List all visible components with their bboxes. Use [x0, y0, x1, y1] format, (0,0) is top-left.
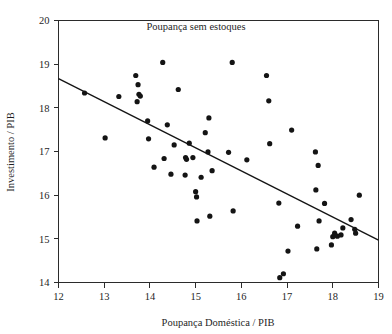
- data-point: [340, 225, 345, 230]
- data-point: [266, 98, 271, 103]
- data-point: [176, 87, 181, 92]
- data-point: [190, 155, 195, 160]
- data-point: [207, 214, 212, 219]
- data-point: [135, 99, 140, 104]
- data-point: [172, 142, 177, 147]
- data-point: [264, 73, 269, 78]
- data-point: [357, 193, 362, 198]
- data-point: [146, 136, 151, 141]
- y-tick-label: 17: [39, 146, 50, 157]
- x-tick-label: 19: [373, 291, 384, 302]
- x-tick-label: 17: [282, 291, 293, 302]
- x-axis-label: Poupança Doméstica / PIB: [162, 317, 275, 328]
- data-point: [289, 128, 294, 133]
- data-point: [313, 187, 318, 192]
- data-point: [193, 189, 198, 194]
- y-tick-label: 15: [39, 234, 50, 245]
- tick-marks: [54, 21, 379, 288]
- data-point: [116, 94, 121, 99]
- data-point: [314, 246, 319, 251]
- data-point: [135, 82, 140, 87]
- data-points: [82, 60, 362, 280]
- trend-line: [59, 79, 379, 241]
- data-point: [244, 157, 249, 162]
- data-point: [184, 157, 189, 162]
- data-point: [133, 73, 138, 78]
- data-point: [194, 218, 199, 223]
- data-point: [203, 130, 208, 135]
- data-point: [348, 217, 353, 222]
- y-tick-labels: 14151617181920: [39, 15, 50, 288]
- data-point: [183, 172, 188, 177]
- data-point: [281, 271, 286, 276]
- y-tick-label: 20: [39, 15, 50, 26]
- data-point: [353, 231, 358, 236]
- data-point: [160, 60, 165, 65]
- y-tick-label: 14: [39, 277, 50, 288]
- data-point: [322, 201, 327, 206]
- data-point: [285, 248, 290, 253]
- x-tick-label: 16: [236, 291, 247, 302]
- regression-line: [59, 79, 379, 241]
- x-tick-label: 12: [53, 291, 64, 302]
- data-point: [277, 275, 282, 280]
- y-tick-label: 16: [39, 190, 50, 201]
- data-point: [151, 165, 156, 170]
- chart-title: Poupança sem estoques: [146, 21, 245, 32]
- data-point: [194, 194, 199, 199]
- data-point: [316, 218, 321, 223]
- data-point: [276, 200, 281, 205]
- y-axis-label: Investimento / PIB: [5, 112, 16, 191]
- data-point: [338, 232, 343, 237]
- data-point: [206, 115, 211, 120]
- data-point: [231, 208, 236, 213]
- x-tick-label: 15: [190, 291, 201, 302]
- data-point: [316, 163, 321, 168]
- data-point: [230, 60, 235, 65]
- data-point: [313, 149, 318, 154]
- data-point: [295, 224, 300, 229]
- data-point: [138, 93, 143, 98]
- x-tick-label: 18: [328, 291, 339, 302]
- plot-canvas: 1213141516171819 14151617181920 Poupança…: [0, 0, 392, 334]
- y-tick-label: 19: [39, 59, 50, 70]
- scatter-chart-figure: 1213141516171819 14151617181920 Poupança…: [0, 0, 392, 334]
- data-point: [226, 150, 231, 155]
- y-tick-label: 18: [39, 103, 50, 114]
- data-point: [165, 122, 170, 127]
- data-point: [329, 242, 334, 247]
- x-tick-labels: 1213141516171819: [53, 291, 384, 302]
- data-point: [103, 135, 108, 140]
- data-point: [210, 168, 215, 173]
- x-tick-label: 13: [99, 291, 110, 302]
- data-point: [168, 172, 173, 177]
- data-point: [162, 156, 167, 161]
- x-tick-label: 14: [145, 291, 156, 302]
- data-point: [267, 141, 272, 146]
- data-point: [199, 175, 204, 180]
